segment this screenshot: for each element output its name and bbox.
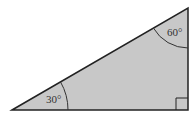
triangle [12,8,188,110]
angle-label-60: 60° [167,26,182,38]
angle-label-30: 30° [46,93,61,105]
triangle-diagram: 30° 60° [0,0,189,117]
